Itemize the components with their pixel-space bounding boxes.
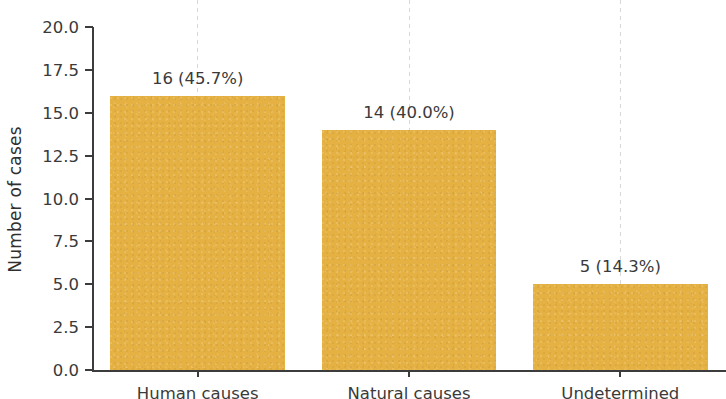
y-axis-tick-label: 12.5 (42, 146, 79, 165)
x-axis-tick-mark (619, 370, 621, 377)
bar-chart: Number of cases 16 (45.7%)14 (40.0%)5 (1… (0, 0, 726, 399)
y-axis-tick-label: 17.5 (42, 60, 79, 79)
y-axis-tick-mark (85, 26, 93, 28)
y-axis-tick-mark (85, 155, 93, 157)
bar-value-label: 16 (45.7%) (152, 69, 244, 88)
y-axis-tick-mark (85, 69, 93, 71)
y-axis-tick-mark (85, 326, 93, 328)
y-axis-tick-mark (85, 240, 93, 242)
bar[interactable] (110, 96, 284, 370)
bar-value-label: 14 (40.0%) (363, 103, 455, 122)
bar-value-label: 5 (14.3%) (580, 257, 661, 276)
y-axis-tick-label: 2.5 (53, 318, 79, 337)
y-axis-tick-mark (85, 283, 93, 285)
y-axis-tick-mark (85, 112, 93, 114)
y-axis-tick-label: 0.0 (53, 361, 79, 380)
x-axis-tick-label: Natural causes (347, 384, 470, 399)
x-axis-tick-label: Human causes (137, 384, 259, 399)
x-axis-tick-label: Undetermined (561, 384, 679, 399)
y-axis-tick-label: 20.0 (42, 18, 79, 37)
y-axis-title: Number of cases (0, 0, 30, 399)
y-axis-tick-mark (85, 369, 93, 371)
y-axis-tick-label: 15.0 (42, 103, 79, 122)
bar[interactable] (533, 284, 707, 370)
y-axis-tick-label: 10.0 (42, 189, 79, 208)
y-axis-tick-label: 5.0 (53, 275, 79, 294)
x-axis-tick-mark (408, 370, 410, 377)
y-axis-tick-mark (85, 198, 93, 200)
bar[interactable] (322, 130, 496, 370)
x-axis-tick-mark (197, 370, 199, 377)
plot-area: 16 (45.7%)14 (40.0%)5 (14.3%) 0.02.55.07… (92, 10, 726, 371)
y-axis-tick-label: 7.5 (53, 232, 79, 251)
